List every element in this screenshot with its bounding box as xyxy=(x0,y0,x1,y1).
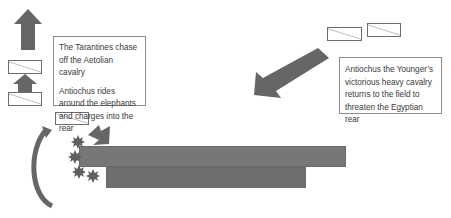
cavalry-unit-aetolian-lower xyxy=(8,92,42,106)
elephant-icon xyxy=(72,165,86,179)
elephant-icon xyxy=(71,135,85,149)
left-annotation-box: The Tarantines chase off the Aetolian ca… xyxy=(53,36,146,106)
cavalry-unit-younger-right xyxy=(367,23,401,37)
annotation-tarantines: The Tarantines chase off the Aetolian ca… xyxy=(59,42,140,80)
cavalry-unit-younger-left xyxy=(327,27,362,41)
elephant-icon xyxy=(68,150,82,164)
elephant-icon xyxy=(86,169,100,183)
annotation-younger-cavalry: Antiochus the Younger’s victorious heavy… xyxy=(345,64,436,127)
right-annotation-box: Antiochus the Younger’s victorious heavy… xyxy=(339,57,442,114)
cavalry-unit-aetolian-upper xyxy=(8,60,42,74)
annotation-antiochus: Antiochus rides around the elephants and… xyxy=(59,86,140,136)
